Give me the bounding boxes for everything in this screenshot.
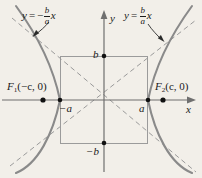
asymptote-left-numerator: b bbox=[44, 6, 51, 15]
asymptote-right-denominator: a bbox=[140, 17, 147, 26]
asymptote-left-variable: x bbox=[51, 9, 56, 21]
focus-left-coords: (−c, 0) bbox=[17, 80, 46, 92]
hyperbola-figure: y=−bax y=bax y x b −b −a a F1(−c, 0) F2(… bbox=[0, 0, 202, 178]
x-axis-label: x bbox=[186, 104, 191, 115]
tick-label-negative-a: −a bbox=[59, 103, 72, 114]
asymptote-equation-left: y=−bax bbox=[22, 6, 56, 26]
co-vertex-top-point bbox=[102, 54, 107, 59]
asymptote-left-equals: = bbox=[27, 9, 37, 21]
vertex-right-point bbox=[146, 98, 151, 103]
co-vertex-bottom-point bbox=[102, 141, 107, 146]
asymptote-left-denominator: a bbox=[44, 17, 51, 26]
y-axis-label: y bbox=[110, 13, 115, 24]
asymptote-left-minus: − bbox=[37, 9, 43, 21]
focus-left-point bbox=[40, 97, 45, 102]
y-axis-arrowhead bbox=[101, 10, 108, 19]
focus-right-label: F2(c, 0) bbox=[155, 81, 189, 94]
focus-left-name: F bbox=[7, 80, 14, 92]
asymptote-right-numerator: b bbox=[140, 6, 147, 15]
tick-label-a: a bbox=[139, 103, 145, 114]
asymptote-equation-right: y=bax bbox=[124, 6, 152, 26]
focus-right-coords: (c, 0) bbox=[165, 80, 188, 92]
asymptote-right-fraction: ba bbox=[140, 6, 147, 26]
asymptote-right-equals: = bbox=[129, 9, 139, 21]
asymptote-right-variable: x bbox=[147, 9, 152, 21]
asymptote-left-fraction: ba bbox=[44, 6, 51, 26]
focus-right-name: F bbox=[155, 80, 162, 92]
tick-label-b: b bbox=[93, 49, 99, 60]
tick-label-negative-b: −b bbox=[86, 146, 99, 157]
focus-right-point bbox=[160, 97, 165, 102]
focus-left-label: F1(−c, 0) bbox=[7, 81, 47, 94]
